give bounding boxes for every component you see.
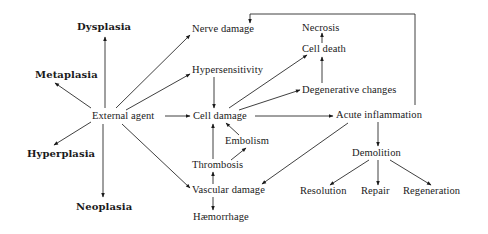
node-thrombosis: Thrombosis [192, 159, 243, 171]
node-demolition: Demolition [352, 147, 401, 159]
node-acute-inflammation: Acute inflammation [336, 109, 422, 121]
node-resolution: Resolution [300, 185, 347, 197]
node-cell-death: Cell death [302, 43, 346, 55]
edge-external-hyperplasia [54, 122, 91, 145]
node-cell-damage: Cell damage [193, 110, 247, 122]
node-degenerative-changes: Degenerative changes [302, 84, 396, 96]
node-hypersensitivity: Hypersensitivity [192, 64, 263, 76]
node-necrosis: Necrosis [302, 22, 340, 34]
node-dysplasia: Dysplasia [77, 21, 131, 33]
edge-external-metaplasia [55, 83, 91, 108]
edge-demolition-regeneration [390, 160, 431, 185]
node-regeneration: Regeneration [403, 185, 460, 197]
node-vascular-damage: Vascular damage [192, 184, 265, 196]
edge-demolition-resolution [330, 160, 369, 185]
node-external-agent: External agent [92, 110, 154, 122]
edge-celldamage-degenerative [239, 90, 300, 110]
node-embolism: Embolism [225, 135, 269, 147]
node-hyperplasia: Hyperplasia [27, 148, 95, 160]
edge-acute-vascular [262, 123, 348, 184]
node-neoplasia: Neoplasia [76, 201, 132, 213]
node-nerve-damage: Nerve damage [192, 23, 254, 35]
node-haemorrhage: Hæmorrhage [193, 211, 249, 223]
edge-external-hypersensitivity [126, 74, 190, 110]
node-repair: Repair [361, 185, 390, 197]
edge-external-vascular [122, 124, 190, 188]
edge-embolism-celldamage [226, 123, 239, 135]
node-metaplasia: Metaplasia [35, 69, 98, 81]
edge-external-nerve [116, 35, 190, 108]
